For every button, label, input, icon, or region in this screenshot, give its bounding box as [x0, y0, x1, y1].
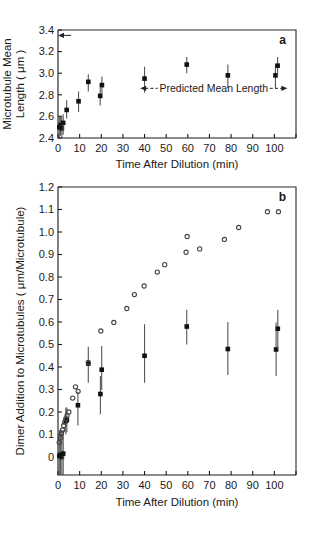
- x-tick-label: 100: [265, 142, 283, 154]
- x-axis-title: Time After Dilution (min): [116, 158, 239, 170]
- x-tick-label: 50: [160, 479, 172, 491]
- data-point-open: [73, 385, 77, 389]
- data-point-filled: [226, 73, 231, 78]
- data-point-filled: [142, 76, 147, 81]
- y-tick-label: 3.2: [39, 45, 54, 57]
- x-tick-label: 70: [203, 142, 215, 154]
- data-point-open: [155, 270, 159, 274]
- data-point-open: [185, 234, 189, 238]
- x-tick-label: 0: [55, 479, 61, 491]
- data-point-filled: [276, 326, 281, 331]
- y-tick-label: 0.8: [39, 271, 54, 283]
- y-axis-title: Dimer Addition to Microtubules ( μm/Micr…: [14, 206, 26, 455]
- panel-b-svg: 010203040506070809010000.10.20.30.40.50.…: [0, 175, 312, 540]
- data-point-open: [276, 210, 280, 214]
- annot-arrow-left-icon: [58, 33, 64, 38]
- x-tick-label: 60: [182, 142, 194, 154]
- x-axis-title: Time After Dilution (min): [116, 496, 239, 508]
- y-tick-label: 0.6: [39, 316, 54, 328]
- data-point-open: [132, 292, 136, 296]
- data-point-open: [163, 263, 167, 267]
- x-tick-label: 50: [160, 142, 172, 154]
- data-point-filled: [76, 99, 81, 104]
- data-point-open: [222, 237, 226, 241]
- y-tick-label: 0.4: [39, 361, 54, 373]
- y-axis-title-line2: Length ( μm ): [14, 50, 26, 119]
- series-filled-square: [57, 57, 280, 138]
- y-tick-label: 3.0: [39, 67, 54, 79]
- y-tick-label: 0: [48, 451, 54, 463]
- data-point-filled: [184, 324, 189, 329]
- y-tick-label: 0.5: [39, 338, 54, 350]
- series-filled-square: [57, 310, 280, 475]
- y-tick-label: 2.4: [39, 132, 54, 144]
- y-tick-label: 1.1: [39, 203, 54, 215]
- data-point-filled: [61, 451, 66, 456]
- panel-a-chart: 01020304050607080901002.42.62.83.03.23.4…: [0, 0, 312, 175]
- panel-a-svg: 01020304050607080901002.42.62.83.03.23.4…: [0, 0, 312, 175]
- data-point-open: [142, 284, 146, 288]
- x-tick-label: 90: [247, 479, 259, 491]
- data-point-filled: [99, 367, 104, 372]
- x-tick-label: 60: [182, 479, 194, 491]
- annot-arrow-right-icon: [281, 86, 287, 91]
- data-point-open: [237, 225, 241, 229]
- figure-container: 01020304050607080901002.42.62.83.03.23.4…: [0, 0, 312, 540]
- plot-frame: [58, 187, 296, 475]
- data-point-filled: [226, 347, 231, 352]
- y-axis-title-line1: Microtubule Mean: [1, 38, 13, 129]
- x-tick-label: 90: [247, 142, 259, 154]
- x-tick-label: 10: [74, 479, 86, 491]
- x-tick-label: 80: [225, 142, 237, 154]
- data-point-filled: [64, 108, 69, 113]
- annot-predicted-mean-length-label: Predicted Mean Length: [159, 82, 268, 94]
- data-point-open: [265, 210, 269, 214]
- y-tick-label: 2.6: [39, 110, 54, 122]
- x-tick-label: 40: [138, 142, 150, 154]
- panel-letter-b: b: [279, 190, 286, 204]
- data-point-filled: [275, 63, 280, 68]
- data-point-open: [184, 250, 188, 254]
- x-tick-label: 20: [95, 479, 107, 491]
- x-tick-label: 70: [203, 479, 215, 491]
- x-tick-label: 30: [117, 142, 129, 154]
- y-tick-label: 0.1: [39, 428, 54, 440]
- data-point-open: [125, 306, 129, 310]
- x-tick-label: 30: [117, 479, 129, 491]
- x-tick-label: 0: [55, 142, 61, 154]
- panel-letter-a: a: [279, 33, 286, 47]
- plot-axes: [58, 187, 296, 475]
- data-point-filled: [100, 83, 105, 88]
- x-tick-label: 40: [138, 479, 150, 491]
- data-point-open: [71, 396, 75, 400]
- data-point-filled: [86, 80, 91, 85]
- y-tick-label: 1.2: [39, 181, 54, 193]
- data-point-filled: [273, 73, 278, 78]
- panel-b-chart: 010203040506070809010000.10.20.30.40.50.…: [0, 175, 312, 540]
- data-point-open: [198, 247, 202, 251]
- x-tick-label: 10: [74, 142, 86, 154]
- x-tick-label: 20: [95, 142, 107, 154]
- data-point-filled: [76, 403, 81, 408]
- y-tick-label: 3.4: [39, 24, 54, 36]
- y-tick-label: 0.9: [39, 248, 54, 260]
- data-point-filled: [98, 392, 103, 397]
- data-point-filled: [61, 121, 66, 126]
- data-point-open: [112, 320, 116, 324]
- x-tick-label: 80: [225, 479, 237, 491]
- data-point-open: [99, 329, 103, 333]
- data-point-filled: [184, 62, 189, 67]
- y-tick-label: 0.3: [39, 383, 54, 395]
- x-tick-label: 100: [265, 479, 283, 491]
- y-tick-label: 0.2: [39, 406, 54, 418]
- y-tick-label: 0.7: [39, 293, 54, 305]
- y-tick-label: 1.0: [39, 226, 54, 238]
- annot-arrow-left-icon: [140, 86, 146, 91]
- series-open-circle: [57, 210, 280, 445]
- y-tick-label: 2.8: [39, 89, 54, 101]
- data-point-filled: [142, 353, 147, 358]
